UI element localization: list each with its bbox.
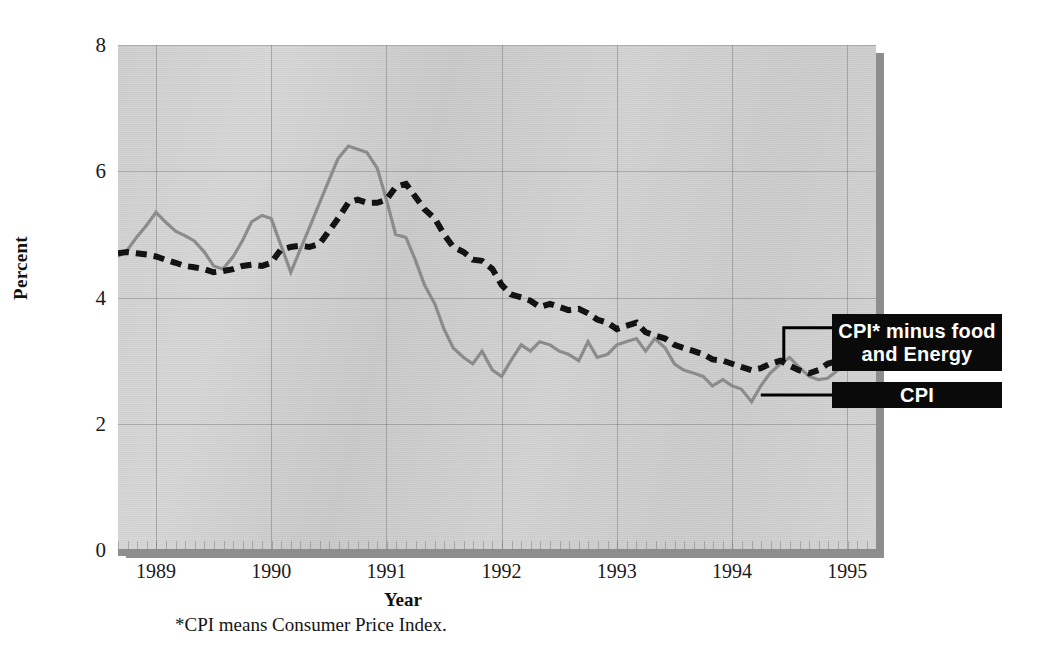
x-tick-label: 1994 <box>712 560 752 583</box>
x-axis-baseline <box>118 549 884 556</box>
y-tick-label: 8 <box>66 33 106 58</box>
legend-core-line1: CPI* minus food <box>838 320 995 342</box>
footnote: *CPI means Consumer Price Index. <box>175 614 447 636</box>
y-tick-label: 2 <box>66 411 106 436</box>
y-axis-title: Percent <box>10 236 32 300</box>
x-tick-label: 1993 <box>597 560 637 583</box>
legend-core-line2: and Energy <box>862 343 973 365</box>
x-tick-label: 1992 <box>482 560 522 583</box>
legend-item-cpi[interactable]: CPI <box>832 382 1002 408</box>
x-axis-title: Year <box>0 589 1050 611</box>
x-tick-label: 1989 <box>136 560 176 583</box>
y-tick-label: 6 <box>66 159 106 184</box>
y-tick-label: 0 <box>66 538 106 563</box>
x-tick-label: 1990 <box>251 560 291 583</box>
legend-item-cpi-label: CPI <box>900 384 934 406</box>
x-axis-ticks: 1989199019911992199319941995 <box>118 560 876 590</box>
x-tick-label: 1991 <box>366 560 406 583</box>
y-axis-ticks: 02468 <box>66 45 106 550</box>
plot-area <box>118 45 876 550</box>
legend-item-cpi-core-label: CPI* minus food and Energy <box>838 320 995 365</box>
legend-item-cpi-core[interactable]: CPI* minus food and Energy <box>832 314 1002 371</box>
chart-root: 02468 1989199019911992199319941995 Perce… <box>0 0 1050 650</box>
x-tick-label: 1995 <box>827 560 867 583</box>
x-axis-title-text: Year <box>384 589 422 610</box>
y-tick-label: 4 <box>66 285 106 310</box>
data-layer <box>118 45 876 550</box>
